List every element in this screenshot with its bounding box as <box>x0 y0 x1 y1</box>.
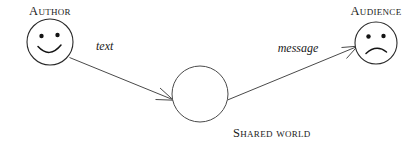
smiley-face-sad-icon <box>355 22 397 64</box>
audience-right-eye <box>381 34 385 38</box>
communication-model-diagram: text message Author Shared world A <box>0 0 415 148</box>
smiley-face-happy-icon <box>27 19 73 65</box>
node-label-author: Author <box>29 4 71 18</box>
node-audience: Audience <box>351 4 402 64</box>
edge-label-text: text <box>96 39 114 53</box>
text-edge-line <box>70 58 173 100</box>
node-label-audience: Audience <box>351 4 402 18</box>
author-right-eye <box>55 33 59 37</box>
node-label-shared-world: Shared world <box>233 126 311 140</box>
node-author: Author <box>27 4 73 65</box>
edge-label-message: message <box>278 41 319 55</box>
edge-message: message <box>228 41 358 100</box>
shared-world-circle <box>172 66 228 122</box>
audience-left-eye <box>366 34 370 38</box>
edge-text: text <box>70 39 174 100</box>
node-shared-world: Shared world <box>172 66 311 140</box>
author-face-circle <box>27 19 73 65</box>
audience-face-circle <box>355 22 397 64</box>
diagram-canvas: text message Author Shared world A <box>0 0 415 148</box>
author-left-eye <box>39 34 43 38</box>
